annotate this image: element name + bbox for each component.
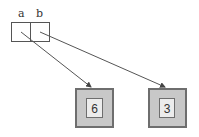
object-value-3: 3	[164, 102, 171, 116]
arrow-a-to-6	[21, 32, 91, 87]
arrow-b-to-3	[40, 32, 165, 87]
object-box-3: 3	[149, 89, 186, 127]
variable-label-a: a	[18, 7, 25, 20]
reference-diagram: a b 6 3	[0, 0, 199, 137]
object-value-6: 6	[91, 102, 98, 116]
variable-label-b: b	[36, 7, 43, 20]
variable-cells	[12, 23, 50, 42]
object-box-6: 6	[76, 89, 113, 127]
